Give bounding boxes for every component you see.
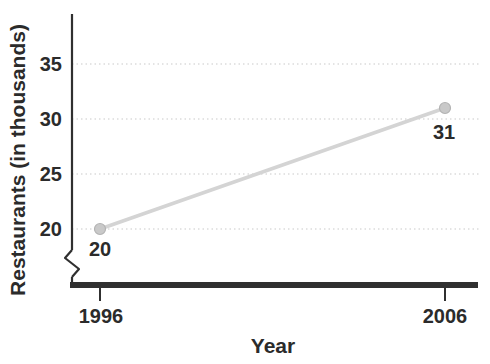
data-point-label-2006: 31 (422, 120, 466, 144)
data-point-label-1996: 20 (78, 237, 122, 261)
y-tick-label-35: 35 (20, 52, 62, 76)
x-axis-baseline (70, 282, 478, 288)
x-axis-title: Year (213, 334, 333, 358)
y-tick-label-20: 20 (20, 217, 62, 241)
y-tick-label-30: 30 (20, 107, 62, 131)
x-tick-label-1996: 1996 (70, 304, 132, 328)
x-tick-label-2006: 2006 (414, 304, 476, 328)
line-chart-figure: Restaurants (in thousands) 35 30 25 20 2… (0, 0, 490, 364)
data-point-marker-2006 (440, 103, 451, 114)
y-axis-line-with-break (65, 14, 79, 285)
data-point-marker-1996 (95, 224, 106, 235)
y-tick-label-25: 25 (20, 162, 62, 186)
data-line (100, 108, 445, 229)
